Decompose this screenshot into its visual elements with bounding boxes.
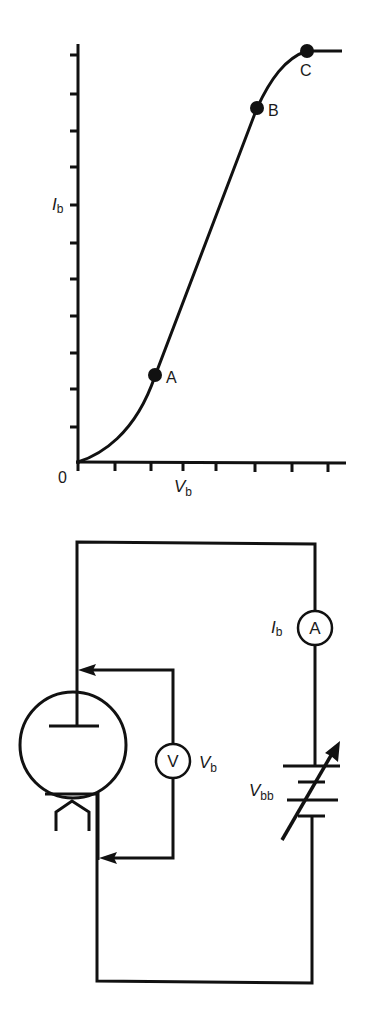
voltmeter-label: Vb <box>199 753 217 775</box>
figure-canvas: A B C 0 Ib Vb <box>0 0 369 1011</box>
origin-label: 0 <box>58 469 67 486</box>
voltmeter-label-sub: b <box>210 761 217 775</box>
x-axis-label-sub: b <box>185 485 192 499</box>
ammeter-label-sub: b <box>276 625 283 639</box>
battery-label: Vbb <box>249 781 274 803</box>
y-axis-label-sub: b <box>57 202 64 216</box>
characteristic-graph <box>70 44 346 472</box>
voltmeter-symbol: V <box>167 752 179 771</box>
point-a <box>148 368 162 382</box>
ammeter-label: Ib <box>271 618 283 639</box>
circuit-diagram <box>20 542 340 983</box>
point-b-label: B <box>268 102 279 119</box>
tube-heater <box>56 801 89 831</box>
y-axis-label: Ib <box>52 195 64 216</box>
voltmeter-lead-top <box>90 670 173 744</box>
battery-label-sub: bb <box>260 789 274 803</box>
point-c <box>300 44 314 58</box>
x-axis-label: Vb <box>174 477 192 499</box>
ammeter-symbol: A <box>309 619 321 638</box>
point-c-label: C <box>300 62 312 79</box>
characteristic-curve <box>78 51 342 462</box>
point-b <box>250 101 264 115</box>
point-a-label: A <box>166 369 177 386</box>
wire-bottom <box>97 794 312 983</box>
vacuum-tube-envelope <box>20 692 126 798</box>
voltmeter-lead-bottom <box>110 778 173 858</box>
